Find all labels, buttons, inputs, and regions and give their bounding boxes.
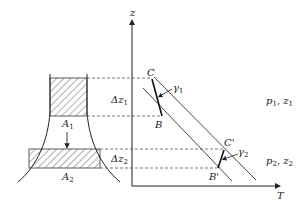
z-axis-label: z bbox=[129, 7, 136, 18]
point-b-prime-label: B' bbox=[208, 171, 219, 182]
hatched-layer-lower bbox=[29, 149, 100, 168]
area-label-a2: A2 bbox=[61, 171, 74, 184]
profile-segment-cb bbox=[152, 79, 162, 116]
hatched-layer-upper bbox=[50, 78, 87, 116]
point-b-label: B bbox=[154, 119, 162, 130]
delta-z1-label: Δz1 bbox=[110, 94, 128, 107]
profile-segment-c-prime-b-prime bbox=[218, 150, 224, 168]
state-label-upper: p1, z1 bbox=[266, 95, 293, 108]
area-label-a1: A1 bbox=[61, 118, 74, 131]
point-c-label: C bbox=[147, 67, 155, 78]
gamma2-label: γ2 bbox=[238, 146, 248, 159]
state-label-lower: p2, z2 bbox=[266, 155, 293, 168]
t-axis-label: T bbox=[277, 190, 285, 201]
diagram-figure: A1 A2 Δz1 Δz2 z T C B C' B' γ1 γ2 p1, z1 bbox=[0, 0, 297, 208]
diagonal-line-right bbox=[154, 77, 256, 180]
gamma1-label: γ1 bbox=[173, 82, 183, 95]
gamma1-arrow bbox=[160, 89, 172, 96]
point-c-prime-label: C' bbox=[224, 137, 234, 148]
delta-z2-label: Δz2 bbox=[110, 153, 128, 166]
